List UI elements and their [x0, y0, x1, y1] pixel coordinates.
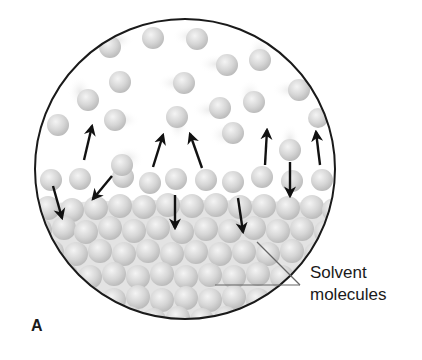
arrow-up-icon — [316, 132, 320, 165]
callout-line-2: molecules — [310, 284, 387, 306]
vapor-molecules — [47, 26, 328, 176]
arrow-up-icon — [153, 135, 163, 167]
arrow-up-icon — [84, 126, 92, 160]
arrow-up-icon — [265, 130, 267, 165]
callout-line-1: Solvent — [310, 262, 387, 284]
panel-label: A — [31, 317, 43, 335]
arrow-down-left-icon — [93, 176, 112, 199]
solvent-molecules-label: Solvent molecules — [310, 262, 387, 306]
arrow-up-icon — [190, 134, 202, 168]
solvent-evaporation-diagram — [0, 0, 422, 360]
